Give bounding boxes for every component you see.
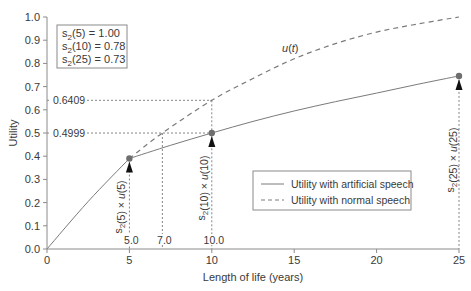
legend-dashed-label: Utility with normal speech: [291, 194, 410, 206]
annotation-box: s2(5) = 1.00s2(10) = 0.78s2(25) = 0.73: [57, 25, 127, 68]
curve-label-u-t: u(t): [282, 42, 299, 54]
point-product-label: s2(25) × u(25): [444, 128, 459, 193]
y-tick-label: 0.3: [25, 173, 40, 185]
label-part: (10): [198, 156, 210, 175]
label-part: ×: [115, 199, 127, 211]
label-part: ×: [198, 180, 210, 192]
reference-x-label: 7.0: [157, 234, 172, 246]
reference-value-label: 0.6409: [53, 94, 85, 106]
point-product-label: s2(5) × u(5): [112, 180, 127, 233]
x-tick-label: 5: [126, 254, 132, 266]
arrow-up-icon: [456, 79, 463, 90]
y-tick-label: 0.6: [25, 104, 40, 116]
annotation-part: (25) = 0.73: [72, 53, 126, 65]
arrow-up-icon: [126, 162, 133, 173]
normal-speech-curve: [129, 17, 459, 159]
x-tick-label: 0: [44, 254, 50, 266]
label-part: (25): [447, 128, 459, 147]
point-markers: [126, 73, 463, 173]
label-part: (10): [198, 192, 210, 211]
y-axis-title: Utility: [7, 119, 19, 146]
label-part: (5): [115, 180, 127, 193]
y-tick-label: 0.7: [25, 81, 40, 93]
annotation-part: (5) = 1.00: [72, 27, 120, 39]
y-tick-label: 0.2: [25, 197, 40, 209]
y-tick-label: 0.1: [25, 220, 40, 232]
arrow-up-icon: [208, 136, 215, 147]
reference-x-label: 5.0: [124, 234, 139, 246]
legend: Utility with artificial speech Utility w…: [253, 171, 414, 210]
y-tick-label: 1.0: [25, 11, 40, 23]
x-axis-title: Length of life (years): [203, 271, 303, 283]
point-product-label: s2(10) × u(10): [195, 156, 210, 221]
annotation-part: (10) = 0.78: [72, 40, 126, 52]
label-part: (5): [115, 211, 127, 224]
annotation-lines: s2(5) = 1.00s2(10) = 0.78s2(25) = 0.73: [62, 27, 125, 68]
label-part: (25): [447, 164, 459, 183]
x-tick-label: 15: [288, 254, 300, 266]
data-point-marker: [209, 130, 215, 136]
utility-chart: 0.00.10.20.30.40.50.60.70.80.91.00510152…: [0, 0, 471, 291]
artificial-speech-curve: [129, 76, 459, 159]
x-tick-label: 20: [370, 254, 382, 266]
y-tick-label: 0.5: [25, 127, 40, 139]
y-tick-label: 0.9: [25, 34, 40, 46]
legend-solid-label: Utility with artificial speech: [291, 178, 414, 190]
data-point-marker: [126, 155, 132, 161]
data-point-marker: [456, 73, 462, 79]
point-labels: 0.64090.49995.07.010.0s2(5) × u(5)s2(10)…: [51, 94, 459, 246]
x-tick-label: 25: [453, 254, 465, 266]
x-tick-label: 10: [206, 254, 218, 266]
y-tick-label: 0.8: [25, 57, 40, 69]
y-tick-label: 0.0: [25, 243, 40, 255]
reference-x-label: 10.0: [204, 234, 225, 246]
y-tick-label: 0.4: [25, 150, 40, 162]
reference-value-label: 0.4999: [53, 127, 85, 139]
label-part: ×: [447, 152, 459, 164]
reference-lines: [47, 76, 459, 249]
